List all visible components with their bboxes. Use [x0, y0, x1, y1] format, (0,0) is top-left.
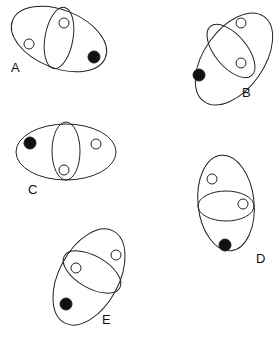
open-dot [24, 39, 34, 49]
figure-label: A [11, 60, 20, 75]
figure-b: B [180, 0, 279, 119]
open-dot [71, 263, 81, 273]
filled-dot [88, 51, 100, 63]
open-dot [238, 199, 248, 209]
filled-dot [193, 69, 205, 81]
inner-ellipse [40, 5, 78, 71]
figure-label: D [256, 251, 265, 266]
diagram-canvas: ABCDE [0, 0, 279, 342]
open-dot [91, 139, 101, 149]
open-dot [111, 250, 121, 260]
open-dot [59, 165, 69, 175]
figure-e: E [38, 217, 140, 337]
outer-ellipse [193, 152, 259, 253]
filled-dot [60, 298, 72, 310]
filled-dot [219, 239, 231, 251]
figure-label: B [242, 85, 251, 100]
filled-dot [24, 137, 36, 149]
open-dot [236, 58, 246, 68]
inner-ellipse [198, 16, 264, 86]
outer-ellipse [38, 217, 140, 337]
figure-d: D [193, 152, 265, 266]
ellipse-diagram: ABCDE [0, 0, 279, 342]
figure-a: A [2, 0, 116, 85]
figure-label: C [28, 182, 37, 197]
open-dot [236, 18, 246, 28]
figure-c: C [16, 122, 116, 197]
open-dot [59, 18, 69, 28]
figure-label: E [102, 312, 111, 327]
outer-ellipse [180, 0, 279, 119]
open-dot [207, 174, 217, 184]
